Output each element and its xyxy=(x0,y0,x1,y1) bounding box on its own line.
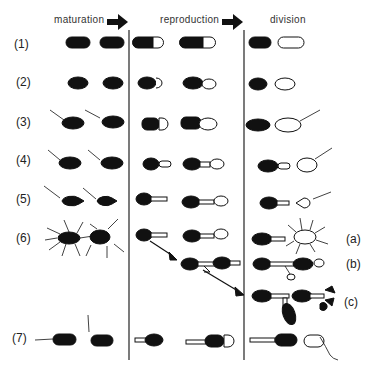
life-cycle-diagram xyxy=(0,0,378,373)
arrow-right-icon xyxy=(107,14,128,30)
arrow-right-icon xyxy=(222,14,243,30)
